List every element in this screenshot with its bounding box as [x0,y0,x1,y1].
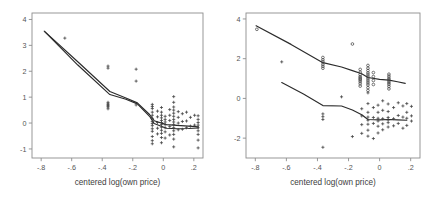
data-point [168,119,171,122]
y-tick-label: 3 [23,41,27,50]
data-point [177,116,180,119]
data-point [197,114,200,117]
data-point [360,114,363,117]
data-point [160,136,163,139]
data-point [193,114,196,117]
data-point [156,115,159,118]
data-point [256,28,259,31]
data-point [197,118,200,121]
chart-panel-left: -.8-.6-.4-.20.2-101234centered log(own p… [0,0,216,202]
y-tick-label: 4 [237,15,241,24]
data-point [405,102,408,105]
x-tick-label: 0 [161,163,165,172]
data-point [172,138,175,141]
data-point [280,60,283,63]
x-axis-title: centered log(own price) [290,178,376,187]
x-tick-label: .2 [191,163,197,172]
data-point [397,114,400,117]
data-point [321,112,324,115]
data-point [401,116,404,119]
data-point [181,112,184,115]
data-point [387,121,390,124]
data-point [168,133,171,136]
data-point [321,146,324,149]
data-point [172,145,175,148]
data-point [359,68,362,71]
data-point [164,115,167,118]
data-point [160,106,163,109]
data-point [160,111,163,114]
data-point [321,115,324,118]
data-point [372,83,375,86]
data-point [372,106,375,109]
data-point [397,122,400,125]
data-point [185,111,188,114]
data-point [372,116,375,119]
data-point [410,120,413,123]
data-point [151,139,154,142]
data-point [340,95,343,98]
data-point [360,107,363,110]
y-tick-label: 0 [237,94,241,103]
data-point [377,131,380,134]
x-tick-label: -.8 [251,163,259,172]
data-point [172,115,175,118]
data-point [172,109,175,112]
data-point [156,127,159,130]
data-point [185,119,188,122]
data-point [160,132,163,135]
data-point [367,86,370,89]
data-point [172,133,175,136]
data-point [392,124,395,127]
data-point [172,105,175,108]
figure-container: -.8-.6-.4-.20.2-101234centered log(own p… [0,0,433,202]
data-point [405,117,408,120]
x-tick-label: -.2 [129,163,137,172]
fit-line-fit-upper [44,31,198,127]
data-point [151,135,154,138]
data-point [377,125,380,128]
data-point [177,110,180,113]
x-tick-label: -.2 [344,163,352,172]
data-point [372,75,375,78]
y-tick-label: 2 [237,54,241,63]
x-tick-label: -.8 [37,163,45,172]
data-point [197,146,200,149]
data-point [401,127,404,130]
data-point [372,79,375,82]
data-point [372,137,375,140]
data-point [172,112,175,115]
data-point [135,80,138,83]
data-point [197,133,200,136]
data-layer [256,26,413,149]
data-point [366,135,369,138]
data-point [106,67,109,70]
y-tick-label: 2 [23,67,27,76]
plot-frame [32,13,203,158]
data-point [387,118,390,121]
data-point [387,102,390,105]
data-point [372,71,375,74]
data-point [168,114,171,117]
data-point [172,129,175,132]
data-point [160,141,163,144]
fit-line-fit-upper [256,26,405,84]
y-tick-label: 4 [23,15,27,24]
y-tick-label: -1 [20,145,26,154]
data-point [189,125,192,128]
data-point [63,37,66,40]
y-tick-label: -2 [234,134,240,143]
data-point [360,132,363,135]
data-point [351,43,354,46]
x-tick-label: -.4 [98,163,106,172]
data-point [135,68,138,71]
series-residual-points [63,37,199,150]
y-tick-label: 1 [23,93,27,102]
data-point [366,111,369,114]
data-point [405,124,408,127]
data-point [181,120,184,123]
data-point [351,135,354,138]
data-point [360,123,363,126]
x-tick-label: -.4 [313,163,321,172]
data-point [177,121,180,124]
